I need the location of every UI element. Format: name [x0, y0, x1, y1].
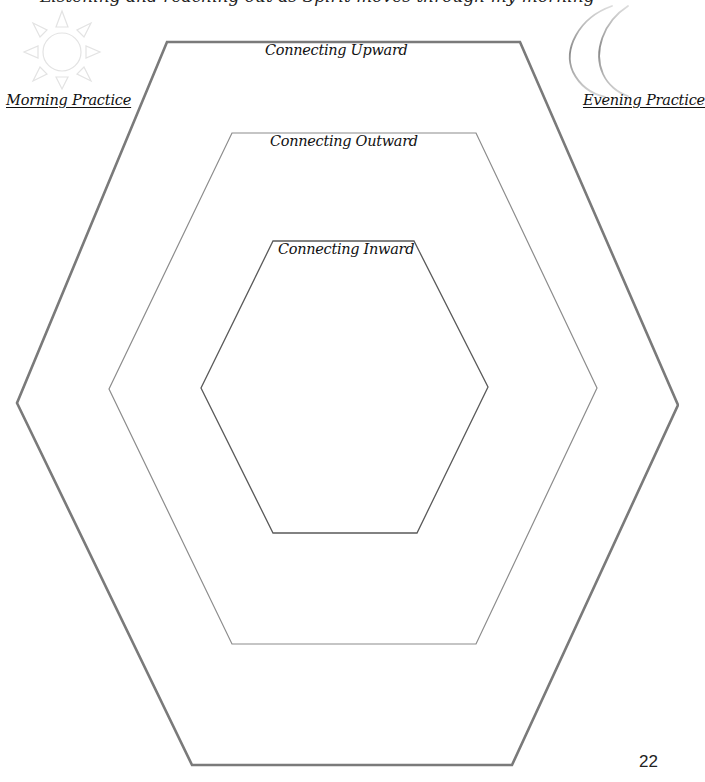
middle-hexagon — [109, 133, 597, 644]
connecting-inward-label: Connecting Inward — [278, 241, 414, 257]
page-number: 22 — [639, 752, 658, 772]
inner-hexagon — [201, 241, 488, 533]
connecting-upward-label: Connecting Upward — [265, 42, 408, 58]
connecting-outward-label: Connecting Outward — [270, 133, 418, 149]
crescent-moon-icon — [570, 6, 628, 97]
sun-icon — [24, 11, 100, 89]
evening-practice-label: Evening Practice — [583, 92, 705, 108]
morning-practice-label: Morning Practice — [6, 92, 131, 108]
